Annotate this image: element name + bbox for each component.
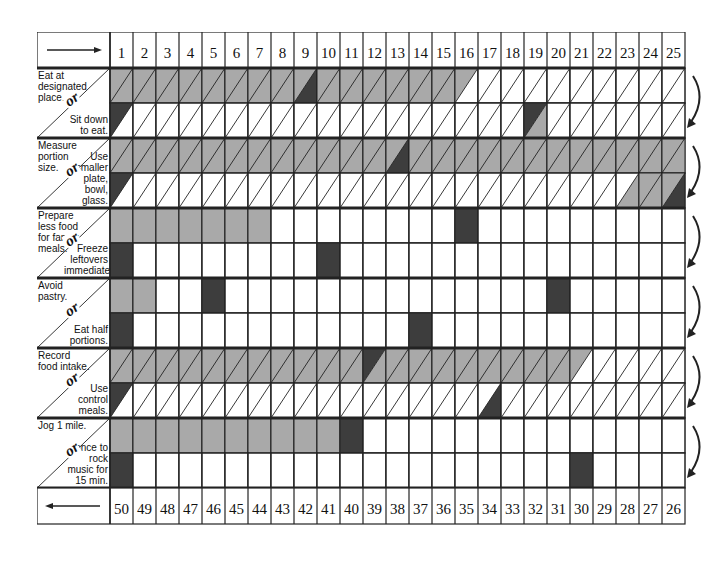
day-number-bottom: 27 [643, 501, 659, 517]
progress-chart: 1234567891011121314151617181920212223242… [37, 32, 703, 532]
day-number-bottom: 32 [528, 501, 543, 517]
day-number-bottom: 50 [114, 501, 129, 517]
day-number-bottom: 35 [459, 501, 474, 517]
habit-block: Jog 1 mile.Dance to rock music for 15 mi… [37, 418, 700, 488]
day-number-bottom: 42 [298, 501, 313, 517]
day-number-top: 11 [344, 45, 358, 61]
day-number-bottom: 26 [666, 501, 682, 517]
day-number-top: 25 [666, 45, 681, 61]
day-number-top: 2 [141, 45, 149, 61]
curved-arrow-icon [691, 216, 700, 262]
day-number-top: 10 [321, 45, 336, 61]
day-number-top: 21 [574, 45, 589, 61]
day-number-bottom: 38 [390, 501, 405, 517]
curved-arrow-icon [691, 356, 700, 402]
day-number-top: 15 [436, 45, 451, 61]
goal-label: Record food intake. [38, 350, 90, 372]
day-number-bottom: 36 [436, 501, 452, 517]
day-number-top: 9 [302, 45, 310, 61]
day-number-bottom: 34 [482, 501, 498, 517]
day-number-bottom: 46 [206, 501, 222, 517]
curved-arrow-icon [691, 146, 700, 192]
day-number-top: 19 [528, 45, 543, 61]
day-number-bottom: 44 [252, 501, 268, 517]
day-number-top: 17 [482, 45, 498, 61]
day-number-bottom: 39 [367, 501, 382, 517]
day-number-top: 22 [597, 45, 612, 61]
habit-block: Record food intake.Use control meals.or [37, 348, 700, 418]
day-number-bottom: 28 [620, 501, 635, 517]
day-number-bottom: 45 [229, 501, 244, 517]
day-number-top: 4 [187, 45, 195, 61]
goal-label: Jog 1 mile. [38, 420, 90, 431]
habit-block: Measure portion size.Use smaller plate, … [37, 138, 700, 208]
day-number-top: 14 [413, 45, 429, 61]
day-number-top: 12 [367, 45, 382, 61]
day-number-bottom: 47 [183, 501, 199, 517]
day-number-top: 6 [233, 45, 241, 61]
day-number-top: 8 [279, 45, 287, 61]
day-number-bottom: 43 [275, 501, 290, 517]
chart-grid: 1234567891011121314151617181920212223242… [37, 32, 703, 528]
curved-arrow-icon [691, 426, 700, 472]
day-number-top: 23 [620, 45, 635, 61]
day-number-bottom: 31 [551, 501, 566, 517]
day-number-top: 1 [118, 45, 126, 61]
goal-label: Avoid pastry. [38, 280, 90, 302]
day-number-top: 20 [551, 45, 566, 61]
day-number-bottom: 49 [137, 501, 152, 517]
day-number-top: 24 [643, 45, 659, 61]
curved-arrow-icon [691, 76, 700, 122]
day-number-top: 3 [164, 45, 172, 61]
day-number-bottom: 40 [344, 501, 359, 517]
habit-block: Prepare less food for family meals.Freez… [37, 208, 700, 278]
day-number-bottom: 37 [413, 501, 429, 517]
curved-arrow-icon [691, 286, 700, 332]
day-number-bottom: 41 [321, 501, 336, 517]
day-number-bottom: 33 [505, 501, 520, 517]
habit-block: Avoid pastry.Eat half portions.or [37, 278, 700, 348]
day-number-top: 13 [390, 45, 405, 61]
day-number-bottom: 29 [597, 501, 612, 517]
day-number-top: 18 [505, 45, 520, 61]
day-number-top: 7 [256, 45, 264, 61]
day-number-top: 16 [459, 45, 475, 61]
day-number-top: 5 [210, 45, 218, 61]
habit-block: Eat at designated place.Sit down to eat.… [37, 68, 700, 138]
day-number-bottom: 30 [574, 501, 589, 517]
alternative-label: Eat half portions. [64, 324, 108, 346]
alternative-label: Sit down to eat. [64, 114, 108, 136]
day-number-bottom: 48 [160, 501, 175, 517]
